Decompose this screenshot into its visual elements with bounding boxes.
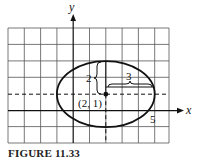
vertical-brace-label: 2 [86,72,92,84]
y-axis-arrow-icon [70,14,76,21]
x-tick-label-5: 5 [150,113,156,125]
vertical-brace-icon [94,62,101,94]
figure-caption: FIGURE 11.33 [8,147,80,159]
x-axis-label: x [185,103,192,117]
center-point [103,92,108,97]
horizontal-brace-label: 3 [126,70,132,82]
center-label: (2, 1) [78,97,102,110]
y-axis-label: y [68,0,75,14]
x-axis-arrow-icon [177,108,184,114]
ellipse-figure: x y (2, 1) 2 3 5 [0,0,198,164]
